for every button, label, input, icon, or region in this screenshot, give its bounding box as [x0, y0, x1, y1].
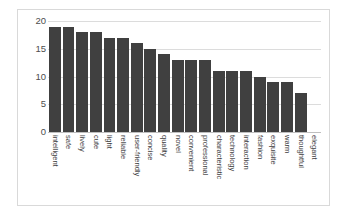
y-axis-tick: 15	[35, 44, 46, 54]
bar[interactable]	[295, 93, 307, 132]
bar[interactable]	[144, 49, 156, 132]
x-label-slot: thoughtful	[294, 133, 308, 203]
x-axis-tick-label: cute	[92, 135, 100, 149]
x-axis-tick-label: characteristic	[215, 135, 223, 179]
x-axis-labels: intelligentsafelivelycutelightreliableus…	[48, 133, 321, 203]
x-axis-tick-label: fashion	[256, 135, 264, 159]
x-label-slot: light	[103, 133, 117, 203]
plot-area: 20 15 10 5 0 intelligentsafelivelycuteli…	[18, 10, 329, 205]
x-label-slot: warm	[280, 133, 294, 203]
bar-slot	[253, 21, 267, 132]
x-label-slot: intelligent	[48, 133, 62, 203]
x-axis-tick-label: lively	[78, 135, 86, 152]
bar-slot	[226, 21, 240, 132]
bar-series	[48, 21, 321, 132]
x-axis-tick-label: safe	[65, 135, 73, 149]
x-label-slot: interaction	[239, 133, 253, 203]
x-axis-tick-label: user-friendly	[133, 135, 141, 176]
bar[interactable]	[281, 82, 293, 132]
x-axis-tick-label: professional	[201, 135, 209, 175]
chart-frame: 20 15 10 5 0 intelligentsafelivelycuteli…	[17, 9, 330, 206]
bar-slot	[294, 21, 308, 132]
bar[interactable]	[240, 71, 252, 132]
bar-slot	[144, 21, 158, 132]
x-axis-tick-label: novel	[174, 135, 182, 153]
x-label-slot: cute	[89, 133, 103, 203]
bar[interactable]	[76, 32, 88, 132]
x-label-slot: elegant	[307, 133, 321, 203]
x-label-slot: safe	[62, 133, 76, 203]
bar[interactable]	[172, 60, 184, 132]
x-axis-tick-label: technology	[229, 135, 237, 171]
bar-slot	[212, 21, 226, 132]
bar[interactable]	[185, 60, 197, 132]
bar-slot	[103, 21, 117, 132]
chart-screenshot: 20 15 10 5 0 intelligentsafelivelycuteli…	[0, 0, 346, 216]
x-label-slot: novel	[171, 133, 185, 203]
y-axis-tick: 20	[35, 16, 46, 26]
bar[interactable]	[158, 54, 170, 132]
bar-slot	[239, 21, 253, 132]
bar-slot	[116, 21, 130, 132]
x-label-slot: professional	[198, 133, 212, 203]
x-axis-tick-label: reliable	[119, 135, 127, 159]
x-axis-tick-label: quality	[160, 135, 168, 157]
x-label-slot: user-friendly	[130, 133, 144, 203]
bar[interactable]	[267, 82, 279, 132]
x-axis-tick-label: light	[106, 135, 114, 149]
bar[interactable]	[63, 27, 75, 132]
bar-slot	[48, 21, 62, 132]
x-label-slot: exquisite	[267, 133, 281, 203]
x-label-slot: technology	[226, 133, 240, 203]
bar-slot	[157, 21, 171, 132]
x-label-slot: characteristic	[212, 133, 226, 203]
y-axis: 20 15 10 5 0	[22, 21, 46, 132]
x-axis-tick-label: convenient	[188, 135, 196, 171]
bar[interactable]	[117, 38, 129, 132]
x-axis-tick-label: intelligent	[51, 135, 59, 167]
x-axis-tick-label: concise	[147, 135, 155, 160]
x-label-slot: concise	[144, 133, 158, 203]
bar-slot	[280, 21, 294, 132]
bar[interactable]	[90, 32, 102, 132]
bar-slot	[171, 21, 185, 132]
bar[interactable]	[199, 60, 211, 132]
grid-area	[48, 21, 321, 132]
bar[interactable]	[49, 27, 61, 132]
y-axis-tick: 5	[41, 100, 46, 110]
bar-slot	[130, 21, 144, 132]
x-axis-tick-label: thoughtful	[297, 135, 305, 168]
bar[interactable]	[226, 71, 238, 132]
bar[interactable]	[254, 77, 266, 133]
x-axis-tick-label: elegant	[311, 135, 319, 160]
x-label-slot: lively	[75, 133, 89, 203]
bar-slot	[307, 21, 321, 132]
bar[interactable]	[213, 71, 225, 132]
y-axis-tick: 0	[41, 127, 46, 137]
y-axis-tick: 10	[35, 72, 46, 82]
bar-slot	[75, 21, 89, 132]
x-axis-tick-label: warm	[283, 135, 291, 153]
bar-slot	[267, 21, 281, 132]
bar-slot	[185, 21, 199, 132]
bar-slot	[62, 21, 76, 132]
x-label-slot: convenient	[185, 133, 199, 203]
bar-slot	[198, 21, 212, 132]
x-axis-tick-label: interaction	[242, 135, 250, 170]
x-label-slot: fashion	[253, 133, 267, 203]
x-label-slot: reliable	[116, 133, 130, 203]
bar-slot	[89, 21, 103, 132]
x-label-slot: quality	[157, 133, 171, 203]
bar[interactable]	[131, 43, 143, 132]
x-axis-tick-label: exquisite	[270, 135, 278, 165]
bar[interactable]	[104, 38, 116, 132]
